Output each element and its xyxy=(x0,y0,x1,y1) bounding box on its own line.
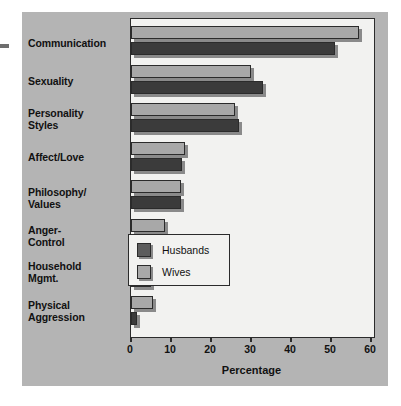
x-axis-tick xyxy=(250,337,252,342)
bar-wives xyxy=(131,296,153,309)
chart-figure: CommunicationSexualityPersonalityStylesA… xyxy=(0,0,401,406)
legend-swatch xyxy=(137,243,151,257)
x-axis-tick-label: 30 xyxy=(244,343,256,355)
category-label-line: Personality xyxy=(28,108,128,120)
category-label-line: Physical xyxy=(28,300,128,312)
x-axis-tick xyxy=(370,337,372,342)
x-axis-tick-labels: 0102030405060 xyxy=(130,343,376,357)
bar-body xyxy=(131,119,239,132)
category-label: Philosophy/Values xyxy=(22,187,128,210)
category-label-line: Values xyxy=(28,199,128,211)
x-axis-title: Percentage xyxy=(130,364,373,376)
bar-body xyxy=(131,42,335,55)
category-label: PersonalityStyles xyxy=(22,108,128,131)
page-edge-tick-mark xyxy=(0,44,9,48)
x-axis-tick xyxy=(330,337,332,342)
legend-label: Wives xyxy=(162,266,191,278)
category-label-line: Mgmt. xyxy=(28,273,128,285)
x-axis-tick-label: 10 xyxy=(164,343,176,355)
category-label: Anger-Control xyxy=(22,225,128,248)
bar-body xyxy=(131,81,263,94)
bar-body xyxy=(131,103,235,116)
bar-wives xyxy=(131,26,359,39)
x-axis-tick xyxy=(130,337,132,342)
legend-label: Husbands xyxy=(162,244,209,256)
bar-body xyxy=(131,142,185,155)
bar-body xyxy=(131,219,165,232)
plot-area xyxy=(130,18,375,338)
bar-husbands xyxy=(131,158,182,171)
x-axis-tick-label: 0 xyxy=(127,343,133,355)
bar-husbands xyxy=(131,312,137,325)
chart-panel: CommunicationSexualityPersonalityStylesA… xyxy=(22,12,388,386)
x-axis-tick-label: 50 xyxy=(324,343,336,355)
x-axis-tick xyxy=(210,337,212,342)
x-axis-tick xyxy=(290,337,292,342)
category-label-line: Styles xyxy=(28,120,128,132)
category-label: PhysicalAggression xyxy=(22,300,128,323)
bar-wives xyxy=(131,142,185,155)
bar-husbands xyxy=(131,119,239,132)
bar-body xyxy=(131,180,181,193)
bar-body xyxy=(131,312,137,325)
category-label-line: Aggression xyxy=(28,312,128,324)
legend-swatch xyxy=(137,265,151,279)
bar-wives xyxy=(131,219,165,232)
bar-body xyxy=(131,65,251,78)
bar-body xyxy=(131,196,181,209)
x-axis-tick-label: 60 xyxy=(364,343,376,355)
bar-body xyxy=(131,158,182,171)
category-label-line: Sexuality xyxy=(28,76,128,88)
bar-body xyxy=(131,296,153,309)
x-axis-tick xyxy=(170,337,172,342)
category-label: Sexuality xyxy=(22,76,128,88)
bar-husbands xyxy=(131,81,263,94)
category-label-line: Control xyxy=(28,237,128,249)
bar-wives xyxy=(131,103,235,116)
category-label-line: Philosophy/ xyxy=(28,187,128,199)
category-label: HouseholdMgmt. xyxy=(22,261,128,284)
chart-legend: HusbandsWives xyxy=(128,234,230,286)
category-axis-labels: CommunicationSexualityPersonalityStylesA… xyxy=(22,12,130,386)
category-label-line: Affect/Love xyxy=(28,152,128,164)
category-label-line: Household xyxy=(28,261,128,273)
category-label-line: Communication xyxy=(28,38,128,50)
bar-wives xyxy=(131,65,251,78)
bar-body xyxy=(131,26,359,39)
category-label: Affect/Love xyxy=(22,152,128,164)
category-label-line: Anger- xyxy=(28,225,128,237)
x-axis-tick-label: 20 xyxy=(204,343,216,355)
x-axis-tick-label: 40 xyxy=(284,343,296,355)
category-label: Communication xyxy=(22,38,128,50)
bar-wives xyxy=(131,180,181,193)
bar-husbands xyxy=(131,196,181,209)
bar-husbands xyxy=(131,42,335,55)
